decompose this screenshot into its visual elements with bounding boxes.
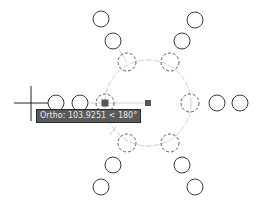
- selected-circle[interactable]: [161, 53, 179, 71]
- circle-object[interactable]: [105, 157, 121, 173]
- base-grip[interactable]: [102, 100, 109, 107]
- selected-circle[interactable]: [181, 94, 199, 112]
- circle-object[interactable]: [209, 95, 225, 111]
- circle-object[interactable]: [174, 157, 190, 173]
- drawing-canvas[interactable]: [0, 0, 261, 206]
- center-grip[interactable]: [145, 100, 151, 106]
- ortho-tooltip: Ortho: 103.9251 < 180°: [36, 109, 141, 123]
- circle-object[interactable]: [105, 33, 121, 49]
- circle-object[interactable]: [93, 179, 109, 195]
- circle-object[interactable]: [187, 179, 203, 195]
- circle-object[interactable]: [93, 11, 109, 27]
- circle-object[interactable]: [232, 95, 248, 111]
- circle-object[interactable]: [187, 12, 203, 28]
- circle-object[interactable]: [174, 33, 190, 49]
